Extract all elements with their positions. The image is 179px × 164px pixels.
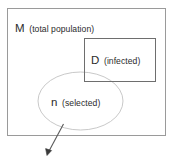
set-diagram: M (total population) D (infected) n (sel… [0,0,179,164]
label-total-population: M (total population) [15,19,94,35]
label-selected-text: (selected) [62,98,100,108]
label-selected: n (selected) [51,93,100,109]
label-infected-text: (infected) [104,56,140,66]
annotation-arrow-line [49,124,64,152]
label-total-population-symbol: M [15,22,25,34]
label-selected-symbol: n [51,96,58,108]
cut-off-caption [56,155,174,163]
label-total-population-text: (total population) [29,24,94,34]
annotation-arrow-head-icon [46,149,52,156]
label-infected: D (infected) [91,51,140,67]
label-infected-symbol: D [91,54,100,66]
